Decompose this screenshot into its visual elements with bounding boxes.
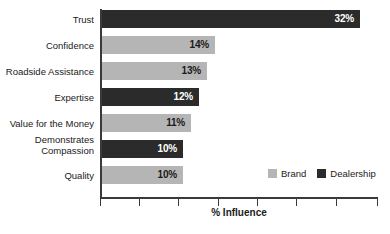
x-axis-tick-2 [178, 199, 179, 206]
legend-swatch-icon [317, 169, 326, 178]
bar[interactable]: 12% [102, 88, 199, 106]
bar-row: 12% [0, 88, 390, 106]
legend-label: Dealership [330, 168, 375, 179]
bar-value-label: 12% [174, 88, 193, 106]
bar[interactable]: 11% [102, 114, 191, 132]
x-axis-tick-1 [139, 199, 140, 206]
bar-value-label: 13% [182, 62, 201, 80]
bar-chart: TrustConfidenceRoadside AssistanceExpert… [0, 0, 390, 234]
legend-swatch-icon [268, 169, 277, 178]
legend-item[interactable]: Brand [268, 168, 306, 179]
bar-row: 32% [0, 10, 390, 28]
legend-item[interactable]: Dealership [317, 168, 375, 179]
bar-value-label: 10% [158, 166, 177, 184]
bar-row: 14% [0, 36, 390, 54]
bar-value-label: 11% [166, 114, 185, 132]
bar-value-label: 32% [335, 10, 354, 28]
bar-row: 13% [0, 62, 390, 80]
chart-legend: BrandDealership [268, 168, 376, 179]
x-axis-tick-3 [218, 199, 219, 206]
bar[interactable]: 10% [102, 166, 183, 184]
x-axis-tick-0 [100, 199, 101, 206]
bar[interactable]: 32% [102, 10, 360, 28]
bar-value-label: 14% [190, 36, 209, 54]
x-axis-title: % Influence [100, 207, 378, 218]
bar-row: 11% [0, 114, 390, 132]
x-axis-tick-4 [257, 199, 258, 206]
legend-label: Brand [281, 168, 306, 179]
x-axis-tick-7 [377, 199, 378, 206]
bar[interactable]: 14% [102, 36, 215, 54]
x-axis-tick-6 [336, 199, 337, 206]
bar-row: 10% [0, 140, 390, 158]
bar[interactable]: 10% [102, 140, 183, 158]
bar-value-label: 10% [158, 140, 177, 158]
x-axis-tick-5 [296, 199, 297, 206]
bar[interactable]: 13% [102, 62, 207, 80]
